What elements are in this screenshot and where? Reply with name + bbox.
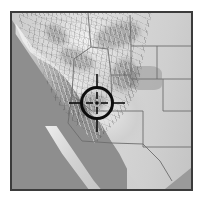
rio-grande bbox=[143, 144, 172, 181]
boundary-idaho-wyoming bbox=[108, 49, 131, 75]
boundary-utah-south bbox=[111, 75, 143, 111]
boundary-idaho-montana bbox=[88, 13, 108, 49]
boundary-montana-wyoming bbox=[130, 15, 191, 46]
locator-map-figure bbox=[0, 0, 204, 201]
boundary-nebraska-kansas bbox=[163, 79, 191, 111]
map-canvas bbox=[12, 13, 191, 189]
map-frame bbox=[10, 11, 193, 191]
boundary-california-east bbox=[68, 95, 82, 141]
boundary-arizona-mexico bbox=[82, 141, 143, 144]
boundary-colorado-newmexico bbox=[143, 111, 191, 147]
boundary-wyoming-colorado bbox=[131, 46, 191, 79]
boundary-nevada-west bbox=[72, 47, 92, 111]
state-boundary-lines bbox=[12, 13, 191, 189]
